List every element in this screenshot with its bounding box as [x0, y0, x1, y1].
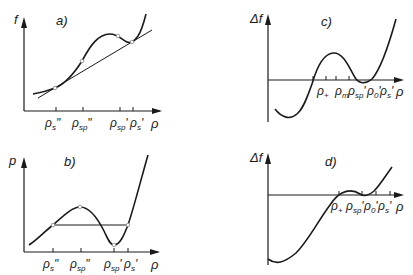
x-axis-label: ρ [396, 85, 403, 98]
y-axis-arrow-icon [21, 17, 27, 28]
tick-label: ρs' [380, 85, 393, 100]
spinodal-point-icon [116, 34, 120, 38]
x-axis-arrow-icon [152, 108, 162, 114]
panel-c-plot [200, 0, 413, 135]
tick-label: ρs' [378, 200, 391, 215]
y-axis-label: Δf [250, 12, 262, 25]
y-axis-label: Δf [250, 151, 262, 164]
panel-tag: a) [56, 14, 68, 27]
panel-b-pressure: p b) ρ ρs" ρsp" ρsp' ρs' [0, 135, 200, 275]
tick-label: ρs" [43, 258, 58, 273]
tick-label: ρ+ [331, 200, 343, 215]
spinodal-point-icon [112, 243, 116, 247]
tick-label: ρs' [124, 258, 137, 273]
tick-label: ρsp" [70, 258, 90, 273]
y-axis-arrow-icon [265, 14, 271, 25]
panel-c-delta-f: Δf c) ρ ρ+ ρm ρsp' ρ0' ρs' [200, 0, 413, 135]
x-axis-arrow-icon [394, 192, 404, 198]
x-axis-arrow-icon [150, 249, 160, 255]
tick-label: ρ0' [364, 200, 378, 215]
y-axis-arrow-icon [265, 153, 271, 164]
x-axis-label: ρ [151, 258, 158, 271]
panel-tag: c) [321, 15, 332, 28]
tick-label: ρsp' [104, 258, 122, 273]
tick-label: ρsp' [110, 117, 128, 132]
tick-label: ρsp' [348, 85, 366, 100]
panel-a-free-energy: f a) ρ ρs" ρsp" ρsp' ρs' [0, 0, 200, 135]
coexistence-point-icon [51, 223, 55, 227]
panel-b-plot [0, 135, 200, 275]
tick-label: ρ0' [367, 85, 381, 100]
y-axis-arrow-icon [21, 157, 27, 168]
panel-tag: b) [64, 155, 76, 168]
panel-a-plot [0, 0, 200, 135]
x-axis-label: ρ [151, 117, 158, 130]
y-axis-label: p [9, 154, 16, 167]
y-axis-label: f [14, 13, 18, 26]
tick-label: ρsp' [346, 200, 364, 215]
spinodal-point-icon [78, 205, 82, 209]
tick-label: ρs" [45, 117, 60, 132]
panel-tag: d) [325, 155, 337, 168]
x-axis-arrow-icon [394, 77, 404, 83]
coexistence-point-icon [130, 40, 134, 44]
spinodal-point-icon [80, 59, 84, 63]
tick-label: ρsp" [72, 117, 92, 132]
panel-d-delta-f: Δf d) ρ ρ+ ρsp' ρ0' ρs' [200, 135, 413, 275]
x-axis-label: ρ [396, 200, 403, 213]
tick-label: ρm [335, 85, 349, 100]
coexistence-point-icon [126, 223, 130, 227]
tick-label: ρs' [130, 117, 143, 132]
tick-label: ρ+ [317, 85, 329, 100]
coexistence-point-icon [53, 86, 57, 90]
